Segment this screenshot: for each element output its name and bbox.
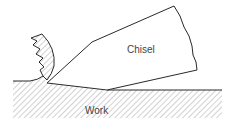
chisel [47, 6, 197, 90]
chisel-label: Chisel [127, 45, 155, 55]
chisel-cutting-diagram [0, 0, 232, 126]
chip [31, 34, 54, 80]
work-label: Work [85, 106, 108, 116]
